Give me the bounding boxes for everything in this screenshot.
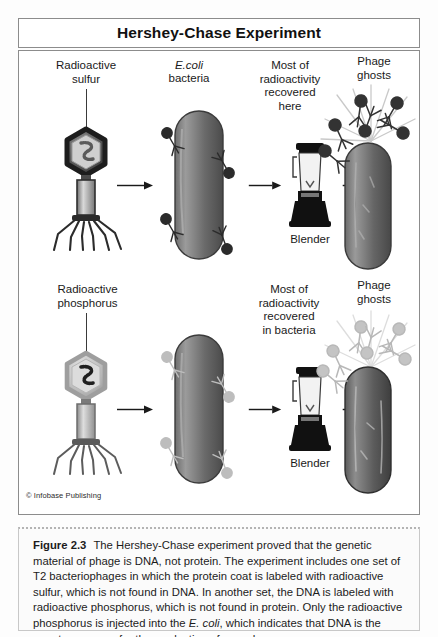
page-title: Hershey-Chase Experiment [117, 24, 321, 42]
caption-part-1: The Hershey-Chase experiment proved that… [33, 539, 402, 629]
label-phage-ghosts-row1: Phage ghosts [341, 55, 407, 82]
caption-organism-name: E. coli [189, 617, 220, 629]
arrow-right-icon [115, 181, 155, 190]
label-phage-ghosts-row2: Phage ghosts [341, 279, 407, 306]
arrow-right-icon [115, 405, 155, 414]
diagram-frame: Radioactive sulfur E.coli bacteria Most … [18, 50, 420, 515]
figure-number: Figure 2.3 [33, 539, 86, 551]
figure-caption-box: Figure 2.3The Hershey-Chase experiment p… [18, 527, 420, 631]
label-bacteria: bacteria [139, 72, 239, 86]
arrow-right-icon [247, 181, 283, 190]
arrow-right-icon [247, 405, 283, 414]
experiment-row-sulfur: Radioactive sulfur E.coli bacteria Most … [19, 51, 419, 283]
experiment-row-phosphorus: Radioactive phosphorus Most of radioacti… [19, 273, 419, 505]
label-radioactive-sulfur: Radioactive sulfur [31, 59, 141, 86]
bacterium-with-phage-ghosts-icon [315, 81, 419, 273]
bacterium-with-phage-ghosts-icon [315, 305, 419, 497]
label-radioactive-phosphorus: Radioactive phosphorus [25, 283, 150, 310]
figure-title-box: Hershey-Chase Experiment [18, 18, 420, 48]
ecoli-bacterium-icon [155, 101, 241, 269]
label-ecoli-italic: E.coli [139, 59, 239, 73]
publisher-credit: © Infobase Publishing [26, 491, 101, 500]
ecoli-bacterium-icon [155, 325, 241, 493]
figure-caption: Figure 2.3The Hershey-Chase experiment p… [33, 538, 407, 637]
figure-page: Hershey-Chase Experiment Radioactive sul… [0, 0, 438, 637]
